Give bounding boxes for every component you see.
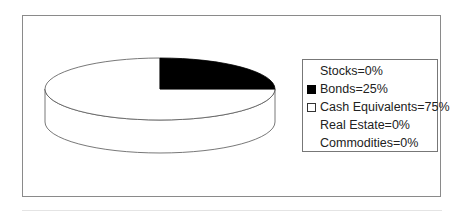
legend-label: Bonds=25% (320, 82, 388, 96)
legend-label: Real Estate=0% (320, 118, 410, 132)
pie-slice-bonds[interactable] (160, 58, 275, 89)
legend-item-cash-equivalents: Cash Equivalents=75% (307, 98, 450, 116)
legend-swatch-bonds (307, 85, 316, 94)
legend-label: Cash Equivalents=75% (320, 100, 450, 114)
legend-swatch-real-estate (307, 121, 316, 130)
legend-item-stocks: Stocks=0% (307, 62, 383, 80)
legend-swatch-cash-equivalents (307, 103, 316, 112)
legend-swatch-stocks (307, 67, 316, 76)
bottom-divider (22, 210, 442, 211)
legend-item-real-estate: Real Estate=0% (307, 116, 410, 134)
chart-legend: Stocks=0% Bonds=25% Cash Equivalents=75%… (302, 59, 438, 152)
legend-swatch-commodities (307, 139, 316, 148)
legend-label: Commodities=0% (320, 136, 418, 150)
legend-label: Stocks=0% (320, 64, 383, 78)
legend-item-commodities: Commodities=0% (307, 134, 418, 152)
legend-item-bonds: Bonds=25% (307, 80, 388, 98)
